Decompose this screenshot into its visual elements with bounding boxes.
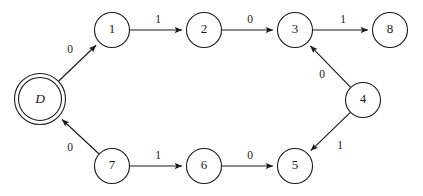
edge-label-D-to-1: 0 (67, 43, 73, 55)
state-node-4[interactable]: 4 (346, 83, 381, 118)
state-label-1: 1 (109, 21, 116, 36)
state-node-7[interactable]: 7 (95, 149, 130, 184)
state-label-2: 2 (201, 21, 208, 36)
state-label-D: D (34, 91, 45, 106)
state-node-3[interactable]: 3 (278, 13, 313, 48)
state-node-2[interactable]: 2 (187, 13, 222, 48)
state-node-1[interactable]: 1 (95, 13, 130, 48)
edge-4-to-5 (311, 113, 350, 151)
edge-D-to-1 (59, 45, 96, 81)
state-node-8[interactable]: 8 (373, 13, 408, 48)
state-label-5: 5 (292, 157, 299, 172)
edge-4-to-3 (310, 46, 350, 87)
automaton-graph: D12384567 010101100 (0, 0, 423, 196)
nodes-layer: D12384567 (15, 13, 408, 184)
state-label-8: 8 (387, 21, 394, 36)
edges-layer (59, 30, 368, 166)
edge-label-7-to-D: 0 (67, 141, 73, 153)
state-node-D[interactable]: D (15, 74, 66, 125)
state-label-6: 6 (201, 157, 208, 172)
edge-label-2-to-3: 0 (247, 13, 253, 25)
state-label-4: 4 (360, 91, 367, 106)
edge-label-7-to-6: 1 (155, 149, 161, 161)
state-diagram-canvas: D12384567 010101100 (0, 0, 423, 196)
edge-label-6-to-5: 0 (247, 149, 253, 161)
state-label-7: 7 (109, 157, 116, 172)
edge-label-4-to-3: 0 (319, 68, 325, 80)
edge-label-1-to-2: 1 (155, 13, 161, 25)
edge-label-4-to-5: 1 (337, 139, 343, 151)
state-node-5[interactable]: 5 (278, 149, 313, 184)
edge-label-3-to-8: 1 (340, 13, 346, 25)
state-label-3: 3 (292, 21, 299, 36)
state-node-6[interactable]: 6 (187, 149, 222, 184)
